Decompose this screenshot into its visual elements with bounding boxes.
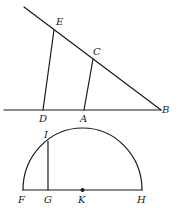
segment-CA <box>84 59 93 110</box>
label-K: K <box>77 194 86 205</box>
label-B: B <box>161 104 169 115</box>
segment-ED <box>43 30 54 110</box>
semicircle-arc <box>23 128 142 190</box>
label-C: C <box>93 46 101 57</box>
label-H: H <box>136 194 146 205</box>
label-G: G <box>44 194 52 205</box>
label-D: D <box>38 113 47 124</box>
geometry-diagram: E C D A B I F G K H <box>0 0 179 214</box>
label-E: E <box>55 16 64 27</box>
center-point-K <box>81 188 85 192</box>
label-I: I <box>43 129 49 140</box>
label-A: A <box>79 113 87 124</box>
label-F: F <box>17 194 26 205</box>
